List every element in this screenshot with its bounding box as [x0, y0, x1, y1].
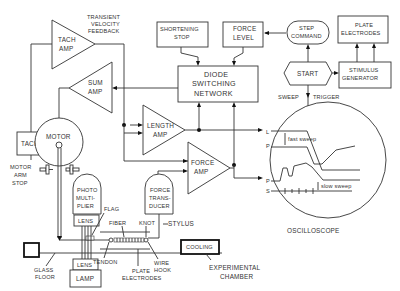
flag-label: FLAG	[104, 206, 119, 212]
trigger-label: TRIGGER	[313, 94, 340, 100]
step-command-label-1: STEP	[299, 25, 314, 31]
pm-label-3: PLIER	[77, 203, 94, 209]
light-beam	[82, 226, 91, 259]
ft-label-3: DUCER	[149, 203, 170, 209]
apparatus-block-diagram: TACH AMP TRANSIENT VELOCITY FEEDBACK SUM…	[0, 0, 400, 291]
lamp: LAMP	[70, 270, 101, 287]
lens-bottom-label: LENS	[77, 262, 92, 268]
arrow-icon	[138, 123, 143, 127]
force-amp-label-2: AMP	[194, 168, 208, 175]
force-level-label-2: LEVEL	[233, 34, 254, 41]
transient-feedback-label: TRANSIENT VELOCITY FEEDBACK	[87, 14, 120, 34]
oscilloscope: L P P S fast sweep slow sweep	[266, 102, 386, 218]
step-command-button[interactable]: STEP COMMAND	[287, 21, 329, 44]
arrow-icon	[355, 43, 359, 48]
knot-icon	[144, 238, 148, 242]
motor-arm-stop-label-1: MOTOR	[10, 164, 31, 170]
transient-label: TRANSIENT	[87, 14, 120, 20]
glass-floor-pointer	[46, 253, 55, 266]
force-level-box[interactable]: FORCE LEVEL	[223, 22, 263, 47]
cooling-box: COOLING	[181, 240, 219, 254]
velocity-label: VELOCITY	[91, 21, 120, 27]
diode-switching-network: DIODE SWITCHING NETWORK	[178, 66, 258, 102]
arrow-icon	[258, 176, 263, 180]
trace-label-P: P	[266, 143, 270, 149]
length-amp: LENGTH AMP	[143, 105, 185, 155]
shortening-to-diode-line	[181, 47, 198, 62]
wire-hook-label-2: HOOK	[154, 267, 171, 273]
experimental-label-2: CHAMBER	[220, 273, 254, 280]
feedback-label: FEEDBACK	[88, 28, 119, 34]
plate-bottom-label-2: ELECTRODES	[122, 275, 162, 281]
stim-label-2: GENERATOR	[342, 75, 378, 81]
tach-amp-label-1: TACH	[58, 36, 76, 43]
tach-amp-label-2: AMP	[59, 45, 73, 52]
arrow-icon	[138, 131, 143, 135]
motor-shaft-icon	[56, 142, 62, 148]
shortening-stop-label-1: SHORTENING	[160, 26, 199, 32]
diode-label-2: SWITCHING	[192, 79, 236, 88]
arrow-icon	[196, 61, 200, 66]
motor-label: MOTOR	[46, 133, 71, 140]
pm-label-2: MULTI-	[76, 195, 95, 201]
start-button[interactable]: START	[284, 62, 332, 85]
length-amp-label-1: LENGTH	[147, 122, 174, 129]
trace-label-P2: P	[266, 178, 270, 184]
lamp-label: LAMP	[76, 275, 94, 282]
pm-label-1: PHOTO	[77, 187, 98, 193]
stim-label-1: STIMULUS	[349, 67, 379, 73]
force-amp: FORCE AMP	[188, 142, 230, 194]
arrow-icon	[372, 43, 376, 48]
length-amp-label-2: AMP	[153, 131, 167, 138]
tendon-pointer	[104, 242, 109, 258]
arrow-icon	[334, 71, 339, 75]
glass-floor-label-2: FLOOR	[35, 274, 55, 280]
flag-icon	[86, 236, 94, 240]
motor-arm-stop-label: MOTOR ARM STOP	[10, 164, 31, 186]
knot-label: KNOT	[139, 220, 156, 226]
force-level-label-1: FORCE	[233, 25, 256, 32]
junction-dot	[197, 128, 201, 132]
force-amp-label-1: FORCE	[191, 159, 214, 166]
motor: MOTOR	[35, 118, 83, 166]
arrow-icon	[183, 169, 188, 173]
glass-floor-block	[24, 243, 39, 257]
photomultiplier: PHOTO MULTI- PLIER	[73, 174, 101, 214]
cooling-label: COOLING	[186, 244, 213, 250]
arrow-icon	[112, 86, 117, 90]
plate-electrodes-top-box: PLATE ELECTRODES	[338, 16, 388, 43]
arrow-icon	[183, 159, 188, 163]
arrow-icon	[232, 102, 236, 107]
shortening-stop-box[interactable]: SHORTENING STOP	[157, 22, 208, 47]
fiber-icon	[114, 238, 144, 242]
arrow-icon	[232, 61, 236, 66]
plate-label-2: ELECTRODES	[341, 30, 381, 36]
ft-label-2: TRANS-	[149, 195, 171, 201]
glass-floor-label-1: GLASS	[34, 267, 54, 273]
lens-top: LENS	[74, 215, 99, 226]
diode-label-1: DIODE	[204, 70, 228, 79]
tendon-knot-icon	[109, 238, 113, 242]
experimental-label-1: EXPERIMENTAL	[209, 264, 261, 271]
plate-bottom-label-1: PLATE	[132, 268, 150, 274]
start-label: START	[297, 70, 318, 77]
force-to-scope-line	[234, 165, 258, 178]
fiber-pointer	[122, 226, 124, 237]
trace-label-S: S	[266, 188, 270, 194]
fast-sweep-label: fast sweep	[288, 136, 316, 142]
tendon-label: TENDON	[93, 259, 118, 265]
sum-amp-label-1: SUM	[88, 79, 103, 86]
force-level-to-diode-line	[234, 47, 243, 62]
sum-amp: SUM AMP	[69, 62, 112, 113]
diode-label-3: NETWORK	[194, 89, 233, 98]
stylus-label: STYLUS	[168, 220, 194, 227]
motor-arm-stop-label-2: ARM	[14, 172, 27, 178]
sum-amp-label-2: AMP	[88, 88, 102, 95]
arrow-icon	[306, 93, 310, 98]
oscilloscope-label: OSCILLOSCOPE	[287, 227, 339, 234]
sweep-label: SWEEP	[278, 94, 299, 100]
step-command-label-2: COMMAND	[291, 33, 322, 39]
fiber-label: FIBER	[109, 220, 126, 226]
force-transducer: FORCE TRANS- DUCER	[145, 174, 173, 214]
stimulus-generator-box: STIMULUS GENERATOR	[339, 62, 391, 88]
